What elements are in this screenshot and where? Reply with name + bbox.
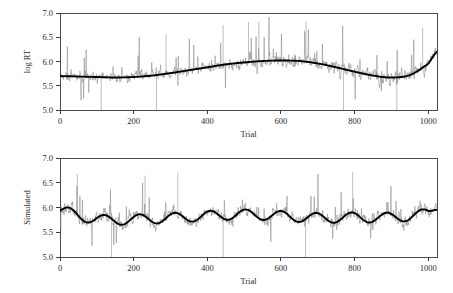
x-axis-label: Trial	[240, 276, 257, 286]
x-axis-tick-label: 1000	[420, 263, 437, 273]
y-axis-tick-label: 5.5	[42, 227, 53, 237]
y-axis-tick-label: 5.0	[42, 252, 53, 262]
x-axis-tick-label: 0	[58, 263, 62, 273]
y-axis-tick-label: 7.0	[42, 153, 53, 163]
y-axis-label: log RT	[22, 49, 32, 73]
y-axis-tick-label: 6.0	[42, 203, 53, 213]
log-rt-plot: 5.05.56.06.57.002004006008001000Triallog…	[0, 0, 453, 146]
simulated-plot: 5.05.56.06.57.002004006008001000TrialSim…	[0, 146, 453, 293]
y-axis-tick-label: 5.5	[42, 81, 53, 91]
y-axis-tick-label: 6.0	[42, 57, 53, 67]
x-axis-tick-label: 800	[348, 116, 361, 126]
x-axis-tick-label: 0	[58, 116, 62, 126]
trend-series-line	[60, 207, 437, 224]
y-axis-tick-label: 6.5	[42, 178, 53, 188]
y-axis-tick-label: 7.0	[42, 8, 53, 18]
data-layer	[60, 172, 437, 257]
chart-panel-log-rt: 5.05.56.06.57.002004006008001000Triallog…	[0, 0, 453, 146]
x-axis-tick-label: 400	[201, 263, 214, 273]
x-axis-tick-label: 200	[127, 263, 140, 273]
x-axis-tick-label: 600	[275, 116, 288, 126]
data-layer	[60, 17, 437, 110]
x-axis-tick-label: 200	[127, 116, 140, 126]
x-axis-label: Trial	[240, 129, 257, 139]
x-axis-tick-label: 600	[275, 263, 288, 273]
x-axis-tick-label: 400	[201, 116, 214, 126]
x-axis-tick-label: 800	[348, 263, 361, 273]
y-axis-tick-label: 5.0	[42, 105, 53, 115]
chart-panel-simulated: 5.05.56.06.57.002004006008001000TrialSim…	[0, 146, 453, 293]
figure-container: 5.05.56.06.57.002004006008001000Triallog…	[0, 0, 453, 293]
x-axis-tick-label: 1000	[420, 116, 437, 126]
y-axis-label: Simulated	[22, 190, 32, 225]
y-axis-tick-label: 6.5	[42, 32, 53, 42]
